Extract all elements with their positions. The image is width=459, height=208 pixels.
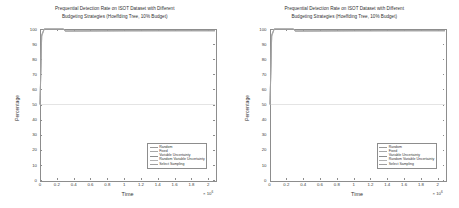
legend-color-swatch-icon [150,147,158,148]
legend-color-swatch-icon [150,160,158,161]
legend-color-swatch-icon [379,151,387,152]
series-line [40,29,215,105]
figure-root: Prequential Detection Rate on ISOT Datas… [0,0,459,208]
chart-legend[interactable]: RandomFixedVariable UncertaintyRandom Va… [147,143,207,169]
chart-legend[interactable]: RandomFixedVariable UncertaintyRandom Va… [377,143,437,169]
series-line [40,29,215,105]
series-line [270,29,445,105]
legend-color-swatch-icon [379,160,387,161]
chart-panel-right: Prequential Detection Rate on ISOT Datas… [230,0,459,208]
series-line [270,29,445,105]
chart-panel-left: Prequential Detection Rate on ISOT Datas… [0,0,230,208]
legend-color-swatch-icon [379,164,387,165]
series-line [40,29,215,105]
legend-color-swatch-icon [379,156,387,157]
series-layer [230,0,459,208]
legend-color-swatch-icon [379,147,387,148]
series-line [270,29,445,105]
legend-color-swatch-icon [150,156,158,157]
legend-item[interactable]: Select Sampling [150,162,205,166]
legend-item-label: Select Sampling [389,163,414,167]
legend-color-swatch-icon [150,151,158,152]
legend-color-swatch-icon [150,164,158,165]
series-line [40,29,215,105]
legend-item-label: Select Sampling [159,163,184,167]
series-line [270,29,445,105]
legend-item[interactable]: Select Sampling [379,162,434,166]
series-layer [0,0,230,208]
series-line [40,29,215,105]
series-line [270,29,445,105]
